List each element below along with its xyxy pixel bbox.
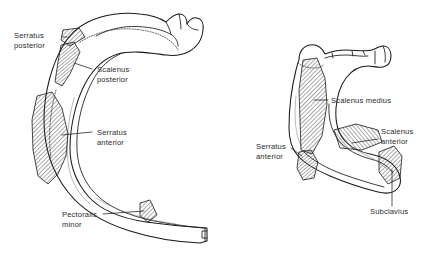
label-serratus-posterior: Serratus posterior <box>14 31 46 50</box>
panel-first-rib: Scalenus medius Scalenus anterior Serrat… <box>256 45 416 216</box>
label-pectoralis-minor-line2: minor <box>62 220 82 229</box>
label-serratus-anterior-left: Serratus anterior <box>97 128 129 147</box>
panel-typical-rib: Serratus posterior Scalenus posterior Se… <box>14 13 207 243</box>
label-pectoralis-minor-line1: Pectoralis <box>62 210 97 219</box>
label-pectoralis-minor: Pectoralis minor <box>62 210 99 229</box>
label-subclavius-text: Subclavius <box>370 207 408 216</box>
label-scalenus-posterior-line1: Scalenus <box>97 65 129 74</box>
label-serratus-posterior-line1: Serratus <box>14 31 44 40</box>
label-scalenus-anterior-right: Scalenus anterior <box>381 127 416 146</box>
label-serratus-anterior-left-line1: Serratus <box>97 128 127 137</box>
label-scalenus-anterior-right-line1: Scalenus <box>381 127 413 136</box>
label-scalenus-medius: Scalenus medius <box>331 96 391 105</box>
label-serratus-anterior-right: Serratus anterior <box>256 142 288 161</box>
label-scalenus-anterior-right-line2: anterior <box>381 137 408 146</box>
anatomical-figure: Serratus posterior Scalenus posterior Se… <box>0 0 427 253</box>
label-scalenus-posterior-line2: posterior <box>97 75 128 84</box>
label-serratus-anterior-right-line1: Serratus <box>256 142 286 151</box>
label-subclavius: Subclavius <box>370 207 408 216</box>
label-serratus-anterior-left-line2: anterior <box>97 138 124 147</box>
rib-attachment-diagram: Serratus posterior Scalenus posterior Se… <box>0 0 427 253</box>
label-serratus-anterior-right-line2: anterior <box>256 152 283 161</box>
label-scalenus-medius-text: Scalenus medius <box>331 96 391 105</box>
label-serratus-posterior-line2: posterior <box>14 41 45 50</box>
label-scalenus-posterior: Scalenus posterior <box>97 65 132 84</box>
